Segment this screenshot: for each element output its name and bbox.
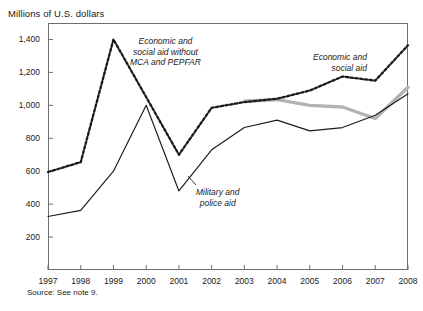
- x-tick-label: 2005: [293, 276, 327, 286]
- series-line: [244, 87, 408, 118]
- annotation-economic-social: Economic and social aid: [313, 52, 367, 73]
- annotation-line: Economic and: [130, 36, 201, 47]
- x-tick-label: 1997: [31, 276, 65, 286]
- annotation-line: police aid: [196, 198, 239, 209]
- x-tick-label: 1999: [96, 276, 130, 286]
- y-tick-label: 400: [4, 199, 40, 209]
- annotation-line: MCA and PEPFAR: [130, 57, 201, 68]
- source-note: Source: See note 9.: [27, 288, 98, 297]
- annotation-military-police: Military and police aid: [196, 187, 239, 208]
- y-axis-ticks: [48, 39, 53, 237]
- chart-canvas: [0, 0, 423, 311]
- x-tick-label: 2006: [326, 276, 360, 286]
- x-tick-label: 2004: [260, 276, 294, 286]
- x-axis-ticks: [48, 265, 408, 270]
- annotation-leaders: [188, 176, 196, 185]
- y-tick-label: 200: [4, 232, 40, 242]
- y-tick-label: 1,000: [4, 100, 40, 110]
- x-tick-label: 2008: [391, 276, 423, 286]
- annotation-economic-social-without: Economic and social aid without MCA and …: [130, 36, 201, 68]
- y-tick-label: 800: [4, 133, 40, 143]
- leader-line-military: [188, 176, 196, 185]
- x-tick-label: 2007: [358, 276, 392, 286]
- y-tick-label: 600: [4, 166, 40, 176]
- chart-figure: Millions of U.S. dollars 2004006008001,0…: [0, 0, 423, 311]
- annotation-line: social aid without: [130, 47, 201, 58]
- annotation-line: social aid: [313, 63, 367, 74]
- x-tick-label: 2000: [129, 276, 163, 286]
- x-tick-label: 2002: [195, 276, 229, 286]
- annotation-line: Military and: [196, 187, 239, 198]
- y-tick-label: 1,400: [4, 34, 40, 44]
- y-tick-label: 1,200: [4, 67, 40, 77]
- x-tick-label: 2003: [227, 276, 261, 286]
- x-tick-label: 1998: [64, 276, 98, 286]
- annotation-line: Economic and: [313, 52, 367, 63]
- x-tick-label: 2001: [162, 276, 196, 286]
